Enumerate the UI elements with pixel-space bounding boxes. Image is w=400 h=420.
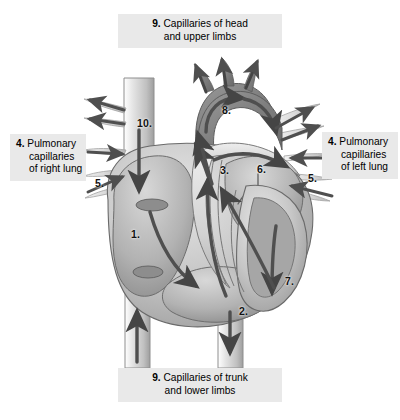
- caption-right-lung-capillaries: 4. Pulmonary capillaries of right lung: [10, 134, 86, 181]
- caption-top-line1: Capillaries of head: [163, 18, 247, 29]
- caption-top-number: 9.: [152, 18, 161, 29]
- caption-right-line3: of left lung: [328, 161, 392, 174]
- caption-trunk-lower-limbs: 9. Capillaries of trunk and lower limbs: [118, 368, 282, 402]
- caption-right-number: 4.: [328, 136, 337, 147]
- aortic-arch: [194, 58, 282, 152]
- caption-bottom-line1: Capillaries of trunk: [163, 372, 247, 383]
- caption-bottom-line2: and lower limbs: [124, 385, 276, 398]
- caption-right-line2: capillaries: [328, 149, 392, 162]
- heart-illustration: [0, 0, 400, 420]
- diagram-canvas: 9. Capillaries of head and upper limbs 9…: [0, 0, 400, 420]
- caption-left-line3: of right lung: [16, 163, 80, 176]
- caption-left-line2: capillaries: [16, 151, 80, 164]
- caption-bottom-number: 9.: [152, 372, 161, 383]
- caption-head-upper-limbs: 9. Capillaries of head and upper limbs: [118, 14, 282, 48]
- caption-left-lung-capillaries: 4. Pulmonary capillaries of left lung: [322, 132, 398, 179]
- caption-right-line1: Pulmonary: [339, 136, 388, 147]
- caption-left-line1: Pulmonary: [27, 138, 76, 149]
- caption-top-line2: and upper limbs: [124, 31, 276, 44]
- caption-left-number: 4.: [16, 138, 25, 149]
